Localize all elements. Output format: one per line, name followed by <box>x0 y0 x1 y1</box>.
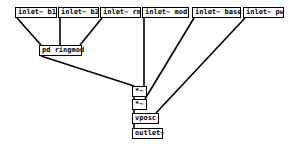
object-box-mul-1[interactable]: *~ <box>132 86 147 97</box>
object-box-pd-ringmod[interactable]: pd ringmod <box>39 45 82 56</box>
object-box-inlet-b2[interactable]: inlet~ b2 <box>58 7 99 18</box>
connection-pd-ringmod-to-mul-1[interactable] <box>41 56 134 86</box>
object-box-outlet[interactable]: outlet~ <box>132 128 163 139</box>
connection-inlet-pw-to-vposc[interactable] <box>156 18 245 113</box>
object-box-inlet-base[interactable]: inlet~ base <box>192 7 241 18</box>
object-box-inlet-b1[interactable]: inlet~ b1 <box>15 7 57 18</box>
object-box-inlet-mod[interactable]: inlet~ mod <box>142 7 189 18</box>
patch-canvas[interactable]: inlet~ b1inlet~ b2inlet~ rminlet~ modinl… <box>0 0 295 149</box>
object-box-mul-2[interactable]: *~ <box>132 99 147 110</box>
object-box-inlet-rm[interactable]: inlet~ rm <box>100 7 141 18</box>
connection-inlet-rm-to-pd-ringmod[interactable] <box>80 18 102 45</box>
object-box-inlet-pw[interactable]: inlet~ pw <box>243 7 284 18</box>
connection-inlet-b1-to-pd-ringmod[interactable] <box>17 18 41 45</box>
connections-layer <box>0 0 295 149</box>
object-box-vposc[interactable]: vposc <box>132 113 159 124</box>
connection-inlet-base-to-mul-2[interactable] <box>145 18 194 99</box>
